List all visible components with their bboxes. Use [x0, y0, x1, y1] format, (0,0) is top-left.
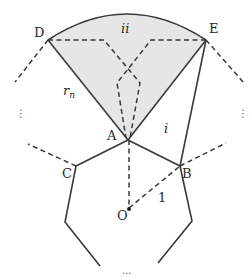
segment-ab — [128, 140, 180, 166]
dashed-extension-d — [15, 40, 48, 82]
ellipsis-right: ⋮ — [238, 108, 248, 119]
ellipsis-bottom: ... — [122, 265, 132, 276]
label-c: C — [62, 166, 72, 181]
region-label-i: i — [164, 121, 168, 136]
polygon-left-lower-sides — [65, 166, 100, 266]
dashed-extension-b — [180, 143, 226, 166]
label-e: E — [209, 21, 219, 36]
label-a: A — [106, 128, 117, 143]
ellipsis-left: ⋮ — [16, 108, 26, 119]
radius-label-1: 1 — [158, 190, 166, 205]
label-d: D — [34, 25, 44, 40]
label-b: B — [182, 166, 192, 181]
region-label-ii: ii — [121, 21, 129, 36]
segment-ac — [76, 140, 128, 166]
dashed-extension-e — [206, 40, 244, 83]
radius-label-rn: rn — [63, 83, 75, 100]
dashed-segment-ob — [129, 166, 180, 208]
geometry-diagram: D E A B C O ii i rn 1 ⋮ ⋮ ... — [0, 0, 251, 278]
label-o: O — [117, 208, 128, 223]
dashed-extension-c — [28, 144, 76, 166]
